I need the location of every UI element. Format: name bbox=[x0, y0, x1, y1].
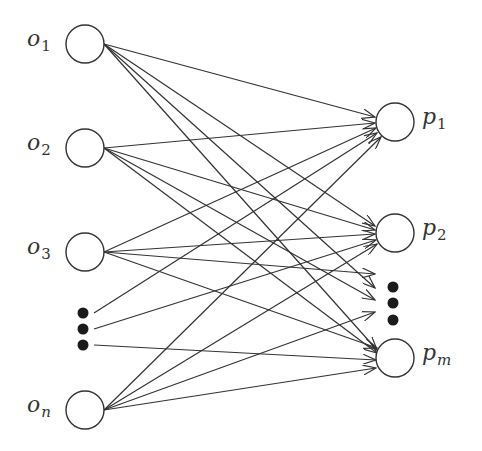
ellipsis-dot bbox=[388, 282, 399, 293]
node-on bbox=[66, 391, 104, 429]
label-subscript: n bbox=[41, 403, 51, 421]
label-subscript: 2 bbox=[41, 141, 51, 159]
label-o2: o2 bbox=[27, 132, 51, 158]
label-subscript: m bbox=[437, 351, 451, 369]
label-base: p bbox=[422, 340, 436, 365]
ellipsis-group bbox=[78, 282, 399, 351]
edge-arrow bbox=[104, 148, 377, 353]
edge-arrow bbox=[104, 252, 375, 274]
nodes-group bbox=[66, 25, 414, 429]
label-subscript: 1 bbox=[41, 37, 51, 55]
label-base: p bbox=[422, 215, 436, 240]
label-pm: pm bbox=[422, 342, 451, 368]
edge-arrow bbox=[94, 345, 376, 360]
ellipsis-dot bbox=[388, 298, 399, 309]
label-p2: p2 bbox=[422, 217, 447, 243]
label-subscript: 2 bbox=[437, 226, 447, 244]
edge-arrow bbox=[94, 240, 376, 329]
edge-arrow bbox=[104, 123, 375, 148]
edges-group bbox=[94, 44, 381, 410]
node-o3 bbox=[66, 233, 104, 271]
label-base: o bbox=[27, 392, 40, 417]
edge-arrow bbox=[104, 44, 377, 350]
label-base: o bbox=[27, 234, 40, 259]
edge-arrow bbox=[104, 368, 376, 410]
label-on: on bbox=[27, 394, 51, 420]
edge-arrow bbox=[104, 312, 375, 410]
node-o1 bbox=[66, 25, 104, 63]
label-o1: o1 bbox=[27, 28, 51, 54]
network-diagram: o1o2o3onp1p2pm bbox=[0, 0, 482, 451]
label-base: o bbox=[27, 26, 40, 51]
label-base: p bbox=[422, 104, 436, 129]
node-p2 bbox=[376, 214, 414, 252]
edge-arrow bbox=[104, 128, 376, 252]
label-base: o bbox=[27, 130, 40, 155]
edge-arrow bbox=[104, 252, 377, 348]
label-subscript: 3 bbox=[41, 245, 51, 263]
node-p1 bbox=[376, 103, 414, 141]
diagram-graphics bbox=[0, 0, 482, 451]
ellipsis-dot bbox=[78, 340, 89, 351]
label-p1: p1 bbox=[422, 106, 447, 132]
edge-arrow bbox=[94, 133, 377, 313]
node-o2 bbox=[66, 129, 104, 167]
label-o3: o3 bbox=[27, 236, 51, 262]
ellipsis-dot bbox=[78, 324, 89, 335]
edge-arrow bbox=[104, 244, 377, 410]
node-pm bbox=[376, 339, 414, 377]
ellipsis-dot bbox=[78, 308, 89, 319]
ellipsis-dot bbox=[388, 315, 399, 326]
edge-arrow bbox=[104, 137, 381, 410]
label-subscript: 1 bbox=[437, 115, 447, 133]
